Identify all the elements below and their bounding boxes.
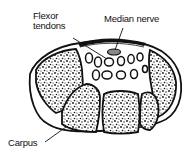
flexor-label-line2: tendons	[33, 21, 65, 31]
carpal-bone-bottom-right	[140, 92, 159, 130]
carpus-leader-line	[45, 127, 66, 142]
carpal-bone-bottom-middle	[103, 91, 140, 134]
median-nerve-label: Median nerve	[104, 14, 159, 24]
carpal-tunnel-diagram	[0, 0, 191, 158]
flexor-tendons-label: Flexor tendons	[33, 11, 65, 31]
carpus-label: Carpus	[8, 138, 37, 148]
median-nerve	[108, 49, 121, 55]
